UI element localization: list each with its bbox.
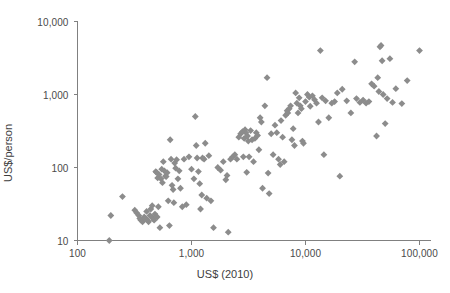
axes: [77, 21, 431, 241]
data-point: [261, 102, 268, 109]
data-point: [291, 142, 298, 149]
data-point: [379, 57, 386, 64]
scatter-chart: 101001,00010,000 1001,00010,000100,000 U…: [0, 0, 450, 293]
data-point: [250, 158, 257, 165]
data-point: [266, 190, 273, 197]
data-point: [317, 47, 324, 54]
data-point: [398, 100, 405, 107]
x-tick-label: 1,000: [179, 248, 205, 259]
data-point: [339, 86, 346, 93]
data-point: [106, 237, 113, 244]
data-point: [387, 55, 394, 62]
y-tick-label: 1,000: [0, 89, 69, 100]
data-point: [272, 122, 279, 129]
data-point: [292, 90, 299, 97]
y-tick-marks: [74, 22, 78, 241]
data-point: [255, 146, 262, 153]
data-point: [220, 158, 227, 165]
data-point: [119, 193, 126, 200]
data-point: [343, 97, 350, 104]
data-point: [243, 169, 250, 176]
data-point: [195, 168, 202, 175]
data-point: [302, 98, 309, 105]
data-point: [205, 152, 212, 159]
data-point: [155, 203, 162, 210]
data-point: [175, 175, 182, 182]
data-point: [188, 166, 195, 173]
data-point: [416, 47, 423, 54]
x-axis-title: US$ (2010): [0, 268, 450, 280]
data-point: [290, 125, 297, 132]
data-point: [166, 222, 173, 229]
data-point: [320, 151, 327, 158]
data-point: [268, 130, 275, 137]
data-point: [336, 173, 343, 180]
data-point: [193, 142, 200, 149]
data-point: [197, 206, 204, 213]
x-tick-label: 10,000: [290, 248, 321, 259]
data-point: [170, 199, 177, 206]
data-point: [167, 136, 174, 143]
data-point: [279, 134, 286, 141]
data-point: [275, 156, 282, 163]
data-point: [210, 224, 217, 231]
data-point: [351, 58, 358, 65]
x-tick-marks: [78, 241, 420, 245]
data-point: [192, 113, 199, 120]
data-point: [389, 99, 396, 106]
data-point: [278, 117, 285, 124]
data-point: [373, 133, 380, 140]
y-tick-label: 10: [0, 235, 69, 246]
data-point: [160, 158, 167, 165]
data-point: [307, 103, 314, 110]
data-point: [202, 140, 209, 147]
data-point: [347, 109, 354, 116]
data-point: [165, 197, 172, 204]
data-point: [289, 136, 296, 143]
x-tick-label: 100: [69, 248, 86, 259]
data-point: [196, 180, 203, 187]
data-point: [392, 85, 399, 92]
data-point: [270, 151, 277, 158]
data-point: [225, 229, 232, 236]
data-point: [374, 74, 381, 81]
data-point: [264, 74, 271, 81]
data-point: [246, 153, 253, 160]
data-point: [404, 77, 411, 84]
y-axis-title: US$/person: [2, 123, 14, 181]
data-point: [156, 224, 163, 231]
data-point: [334, 90, 341, 97]
data-point: [259, 185, 266, 192]
data-point: [273, 129, 280, 136]
x-tick-label: 100,000: [401, 248, 438, 259]
plot-area: [0, 0, 450, 293]
data-point: [191, 175, 198, 182]
y-tick-label: 10,000: [0, 16, 69, 27]
data-point: [315, 119, 322, 126]
data-point: [177, 185, 184, 192]
data-point: [265, 170, 272, 177]
data-point: [325, 114, 332, 121]
data-point: [107, 212, 114, 219]
data-markers: [106, 42, 423, 244]
data-point: [382, 120, 389, 127]
